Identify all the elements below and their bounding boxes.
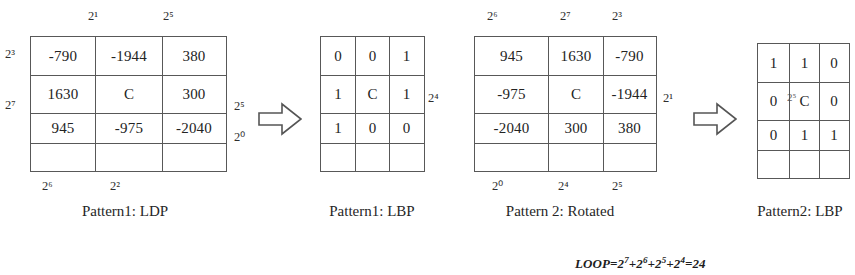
grid3-cell-r1c2: -1944 (603, 76, 655, 113)
loop-formula-lead: LOOP=2 (575, 256, 624, 271)
right-arrow-icon-2 (693, 102, 737, 136)
grid1-cell-r1c0: 1630 (31, 76, 95, 113)
grid1-right-label-2: 2⁵ (234, 100, 245, 113)
grid3-right-label-2: 2¹ (663, 92, 673, 105)
table-row: 0 C 0 (758, 82, 849, 120)
grid3-cell-r1c0: -975 (475, 76, 548, 113)
grid3-bottom-label-3: 2⁵ (612, 180, 623, 193)
grid2-band-c2 (389, 144, 423, 171)
grid2-cell-r1c1-center: C (355, 76, 389, 113)
panel-pattern1-lbp: 0 0 1 1 C 1 1 0 0 Pattern1: LBP (300, 0, 445, 220)
right-arrow-icon-1 (258, 102, 302, 136)
grid1-cell-r0c2: 380 (162, 37, 225, 75)
grid1-band-c1 (95, 144, 162, 171)
panel-pattern1-ldp: 2¹ 2⁵ 2³ 2⁷ 2⁵ 2⁰ 2⁶ 2² -790 -1944 380 1… (0, 0, 250, 220)
grid4-cell-r2c1: 1 (789, 121, 819, 150)
grid2-band-c1 (355, 144, 389, 171)
table-row: 0 1 1 (758, 120, 849, 150)
grid3-cell-r1c1-center: C (548, 76, 603, 113)
grid4-cell-r0c0: 1 (758, 44, 789, 82)
grid4-band-c2 (819, 151, 848, 178)
grid1-cell-r1c1-center: C (95, 76, 162, 113)
loop-base-3: 2 (655, 256, 662, 271)
grid3-cell-r2c2: 380 (603, 114, 655, 143)
caption-pattern1-ldp: Pattern1: LDP (0, 203, 250, 220)
grid2-cell-r0c0: 0 (321, 37, 355, 75)
grid2-cell-r2c0: 1 (321, 114, 355, 143)
grid1-right-label-3: 2⁰ (234, 131, 245, 144)
grid1-cell-r0c0: -790 (31, 37, 95, 75)
grid4-cell-r0c1: 1 (789, 44, 819, 82)
table-row: 945 1630 -790 (475, 37, 656, 75)
grid3-bottom-label-2: 2⁴ (558, 180, 569, 193)
table-row: 1 0 0 (321, 113, 424, 143)
grid2-cell-r2c2: 0 (389, 114, 423, 143)
grid4-cell-r1c2: 0 (819, 83, 848, 120)
loop-base-2: 2 (636, 256, 643, 271)
grid3-cell-r2c0: -2040 (475, 114, 548, 143)
figure-canvas: 2¹ 2⁵ 2³ 2⁷ 2⁵ 2⁰ 2⁶ 2² -790 -1944 380 1… (0, 0, 855, 275)
table-row: -975 C -1944 (475, 75, 656, 113)
grid3-cell-r0c2: -790 (603, 37, 655, 75)
caption-pattern2-rotated: Pattern 2: Rotated (440, 203, 680, 220)
grid1-bottom-band (31, 143, 226, 171)
grid4-cell-r2c2: 1 (819, 121, 848, 150)
grid3-band-c0 (475, 144, 548, 171)
grid4-cell-r2c0: 0 (758, 121, 789, 150)
table-row: 945 -975 -2040 (31, 113, 226, 143)
grid4-band-c1 (789, 151, 819, 178)
grid1-cell-r2c1: -975 (95, 114, 162, 143)
grid2-band-c0 (321, 144, 355, 171)
grid3-left-label-2: 2⁴ (428, 92, 439, 105)
table-row: 0 0 1 (321, 37, 424, 75)
grid3-top-label-3: 2³ (612, 10, 622, 23)
loop-equals: = (685, 256, 693, 271)
table-row: 1 C 1 (321, 75, 424, 113)
grid2-cell-r1c0: 1 (321, 76, 355, 113)
grid2-cell-r2c1: 0 (355, 114, 389, 143)
table-row: 1 1 0 (758, 44, 849, 82)
panel-pattern2-lbp: 1 1 0 0 C 0 0 1 1 2⁵ Pattern2: LBP (745, 0, 855, 220)
grid2-cell-r1c2: 1 (389, 76, 423, 113)
loop-formula: LOOP=27+26+25+24=24 (575, 256, 706, 272)
table-row: -2040 300 380 (475, 113, 656, 143)
grid3-cell-r2c1: 300 (548, 114, 603, 143)
grid4-band-c0 (758, 151, 789, 178)
grid4-overlap-artifact: 2⁵ (787, 92, 796, 103)
grid2-cell-r0c2: 1 (389, 37, 423, 75)
table-row: -790 -1944 380 (31, 37, 226, 75)
grid4-cell-r0c2: 0 (819, 44, 848, 82)
grid4-bottom-band (758, 150, 849, 178)
table-row: 1630 C 300 (31, 75, 226, 113)
grid-pattern1-ldp: -790 -1944 380 1630 C 300 945 -975 -2040 (30, 36, 227, 172)
grid1-top-label-3: 2⁵ (163, 10, 174, 23)
loop-plus-3: + (666, 256, 674, 271)
grid3-top-label-1: 2⁶ (487, 10, 498, 23)
grid4-cell-r1c0: 0 (758, 83, 789, 120)
grid3-band-c1 (548, 144, 603, 171)
loop-plus-2: + (648, 256, 656, 271)
grid1-band-c2 (162, 144, 225, 171)
grid1-left-label-1: 2³ (5, 48, 15, 61)
grid3-top-label-2: 2⁷ (560, 10, 571, 23)
grid1-cell-r0c1: -1944 (95, 37, 162, 75)
grid2-bottom-band (321, 143, 424, 171)
grid2-cell-r0c1: 0 (355, 37, 389, 75)
grid3-cell-r0c1: 1630 (548, 37, 603, 75)
grid-pattern2-rotated: 945 1630 -790 -975 C -1944 -2040 300 380 (474, 36, 657, 172)
grid-pattern1-lbp: 0 0 1 1 C 1 1 0 0 (320, 36, 425, 172)
grid1-band-c0 (31, 144, 95, 171)
grid3-cell-r0c0: 945 (475, 37, 548, 75)
grid3-bottom-label-1: 2⁰ (492, 180, 503, 193)
grid-pattern2-lbp: 1 1 0 0 C 0 0 1 1 (757, 43, 850, 179)
grid1-cell-r2c2: -2040 (162, 114, 225, 143)
caption-pattern2-lbp: Pattern2: LBP (715, 203, 855, 220)
grid1-bottom-label-1: 2⁶ (42, 180, 53, 193)
grid1-top-label-2: 2¹ (88, 10, 98, 23)
panel-pattern2-rotated: 2⁶ 2⁷ 2³ 2⁴ 2¹ 2⁰ 2⁴ 2⁵ 945 1630 -790 -9… (440, 0, 680, 220)
grid1-bottom-label-2: 2² (110, 180, 120, 193)
grid1-left-label-2: 2⁷ (5, 99, 16, 112)
loop-result: 24 (693, 256, 706, 271)
grid1-cell-r2c0: 945 (31, 114, 95, 143)
grid1-cell-r1c2: 300 (162, 76, 225, 113)
